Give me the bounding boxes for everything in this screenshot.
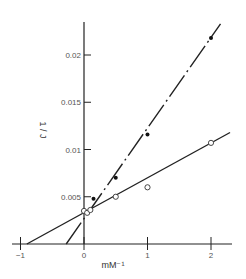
x-tick-label: −1: [16, 251, 26, 260]
filled-data-point: [114, 176, 118, 180]
filled-data-point: [146, 132, 150, 136]
y-tick-label: 0.005: [61, 193, 82, 202]
y-ticks: 0.0050.010.0150.02: [61, 51, 91, 202]
y-axis-label: 1 / J: [38, 121, 48, 138]
open-data-point: [145, 185, 150, 190]
open-data-point: [88, 207, 93, 212]
x-tick-label: 0: [82, 251, 87, 260]
x-tick-label: 1: [145, 251, 150, 260]
filled-data-point: [209, 36, 213, 40]
open-data-point: [208, 140, 213, 145]
x-axis-label: mM⁻¹: [102, 260, 125, 270]
y-tick-label: 0.02: [65, 51, 81, 60]
lineweaver-burk-chart: 0.0050.010.0150.02 −1012 mM⁻¹ 1 / J: [0, 0, 246, 279]
fit-lines: [27, 24, 230, 244]
open-fit-line: [27, 132, 230, 244]
filled-data-point: [92, 197, 96, 201]
y-tick-label: 0.015: [61, 98, 82, 107]
x-ticks: −1012: [16, 237, 214, 260]
x-tick-label: 2: [209, 251, 214, 260]
y-tick-label: 0.01: [65, 146, 81, 155]
axes: 0.0050.010.0150.02 −1012: [12, 22, 232, 260]
open-data-point: [113, 194, 118, 199]
